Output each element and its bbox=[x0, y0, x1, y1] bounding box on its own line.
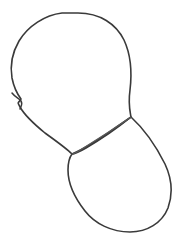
ear-notch-path bbox=[12, 93, 22, 109]
head-outline-path bbox=[11, 13, 131, 154]
drawing-canvas bbox=[0, 0, 175, 243]
body-outline-path bbox=[68, 117, 171, 232]
sketch-svg bbox=[0, 0, 175, 243]
jaw-line-path bbox=[72, 117, 131, 154]
